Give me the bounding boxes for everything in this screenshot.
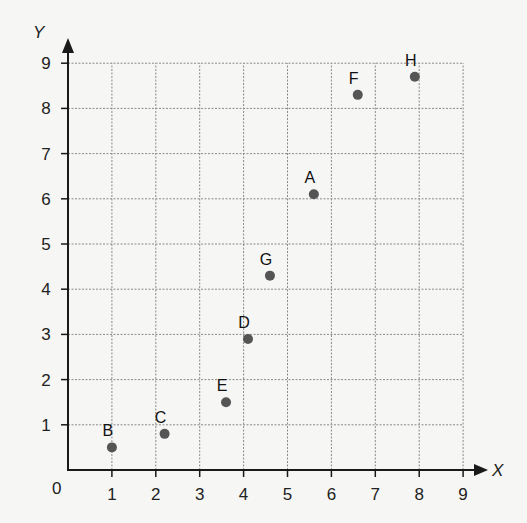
x-tick-label: 8 bbox=[414, 485, 423, 504]
point-marker-icon bbox=[353, 90, 363, 100]
x-tick-label: 1 bbox=[107, 485, 116, 504]
point-label: D bbox=[238, 314, 250, 331]
point-marker-icon bbox=[410, 72, 420, 82]
point-label: C bbox=[155, 409, 167, 426]
x-tick-label: 5 bbox=[283, 485, 292, 504]
point-marker-icon bbox=[160, 429, 170, 439]
point-marker-icon bbox=[265, 271, 275, 281]
y-axis-label: Y bbox=[33, 23, 46, 42]
data-point-e: E bbox=[217, 377, 231, 407]
y-tick-label: 5 bbox=[41, 235, 50, 254]
y-tick-label: 6 bbox=[41, 190, 50, 209]
point-label: B bbox=[103, 422, 114, 439]
data-points: ABCDEFGH bbox=[103, 52, 420, 453]
x-tick-label: 3 bbox=[195, 485, 204, 504]
point-label: F bbox=[349, 70, 359, 87]
data-point-h: H bbox=[405, 52, 420, 82]
data-point-g: G bbox=[260, 251, 275, 281]
data-point-b: B bbox=[103, 422, 117, 452]
x-axis-arrow-icon bbox=[474, 464, 488, 476]
y-tick-label: 2 bbox=[41, 371, 50, 390]
point-marker-icon bbox=[243, 334, 253, 344]
y-tick-label: 8 bbox=[41, 99, 50, 118]
data-point-d: D bbox=[238, 314, 253, 344]
x-tick-label: 7 bbox=[371, 485, 380, 504]
point-marker-icon bbox=[309, 189, 319, 199]
data-point-a: A bbox=[305, 169, 319, 199]
y-tick-label: 4 bbox=[41, 280, 50, 299]
y-tick-label: 3 bbox=[41, 325, 50, 344]
y-tick-label: 7 bbox=[41, 145, 50, 164]
x-axis-label: X bbox=[491, 461, 504, 480]
scatter-chart: X Y 0 123456789123456789 ABCDEFGH bbox=[0, 0, 527, 523]
y-tick-label: 9 bbox=[41, 54, 50, 73]
point-label: H bbox=[405, 52, 417, 69]
x-tick-label: 2 bbox=[151, 485, 160, 504]
x-tick-label: 4 bbox=[239, 485, 248, 504]
y-tick-label: 1 bbox=[41, 416, 50, 435]
point-marker-icon bbox=[107, 442, 117, 452]
origin-label: 0 bbox=[52, 479, 61, 498]
y-axis-arrow-icon bbox=[62, 38, 74, 53]
data-point-f: F bbox=[349, 70, 363, 100]
point-label: E bbox=[217, 377, 228, 394]
x-tick-label: 6 bbox=[327, 485, 336, 504]
point-label: G bbox=[260, 251, 272, 268]
point-marker-icon bbox=[221, 397, 231, 407]
point-label: A bbox=[305, 169, 316, 186]
data-point-c: C bbox=[155, 409, 170, 439]
x-tick-label: 9 bbox=[458, 485, 467, 504]
